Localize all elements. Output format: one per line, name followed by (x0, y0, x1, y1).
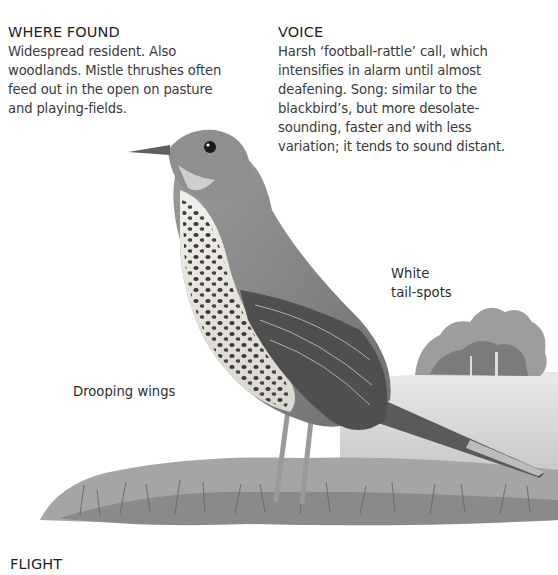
bird-eye (204, 141, 216, 153)
bird-beak (128, 145, 170, 155)
voice-line: blackbird’s, but more desolate- (278, 99, 479, 118)
tail-spots-label-line1: White (391, 264, 452, 283)
voice-line: intensifies in alarm until almost (278, 61, 481, 80)
where-found-line: and playing-fields. (8, 99, 127, 118)
voice-line: Harsh ‘football-rattle’ call, which (278, 42, 488, 61)
voice-heading: VOICE (278, 24, 323, 40)
flight-heading: FLIGHT (10, 556, 62, 572)
voice-line: variation; it tends to sound distant. (278, 137, 505, 156)
drooping-wings-annotation: Drooping wings (73, 382, 175, 401)
voice-line: deafening. Song: similar to the (278, 80, 477, 99)
where-found-line: Widespread resident. Also (8, 42, 176, 61)
where-found-line: woodlands. Mistle thrushes often (8, 61, 221, 80)
grass (40, 458, 558, 526)
voice-line: sounding, faster and with less (278, 118, 472, 137)
tail-spots-annotation: White tail-spots (391, 264, 452, 302)
tail-spots-label-line2: tail-spots (391, 283, 452, 302)
where-found-heading: WHERE FOUND (8, 24, 120, 40)
where-found-line: feed out in the open on pasture (8, 80, 212, 99)
background-trees (415, 308, 547, 376)
